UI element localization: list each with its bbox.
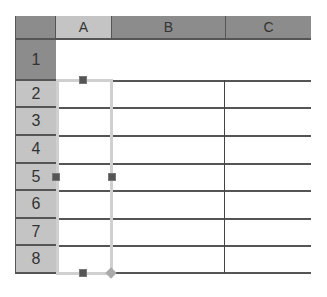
column-header-b[interactable]: B: [111, 16, 225, 40]
row-header-6[interactable]: 6: [16, 191, 56, 219]
grid-line: [224, 80, 225, 273]
row-header-4[interactable]: 4: [16, 136, 56, 164]
select-all-corner[interactable]: [16, 16, 56, 40]
row-header-3[interactable]: 3: [16, 108, 56, 136]
column-header-c[interactable]: C: [225, 16, 311, 40]
cell-b1[interactable]: [111, 40, 225, 80]
resize-handle-left[interactable]: [52, 173, 60, 181]
column-header-a[interactable]: A: [56, 16, 111, 40]
row-header-7[interactable]: 7: [16, 219, 56, 246]
selection-range[interactable]: [56, 79, 113, 275]
resize-handle-right[interactable]: [108, 173, 116, 181]
row-header-8[interactable]: 8: [16, 246, 56, 274]
resize-handle-top[interactable]: [79, 76, 87, 84]
row-header-border: [15, 16, 16, 274]
row-header-1[interactable]: 1: [16, 40, 56, 81]
resize-handle-bottom[interactable]: [79, 269, 87, 277]
row-header-5[interactable]: 5: [16, 164, 56, 191]
row-header-2[interactable]: 2: [16, 81, 56, 108]
